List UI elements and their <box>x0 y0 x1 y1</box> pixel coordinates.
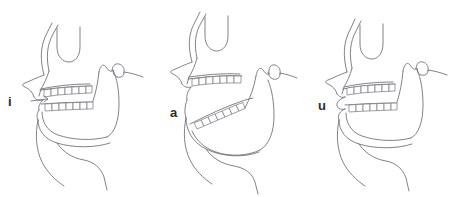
panel-vowel-i: i <box>0 0 152 197</box>
upper-teeth-row-i <box>44 86 92 97</box>
skull-profile-drawing-a <box>152 0 304 197</box>
panel-vowel-u: u <box>303 0 455 197</box>
lower-teeth-row-i <box>45 102 93 111</box>
lower-teeth-row-u <box>349 103 397 112</box>
lower-teeth-row-a <box>194 103 245 130</box>
vowel-label-a: a <box>170 106 177 119</box>
vowel-label-u: u <box>318 99 326 112</box>
vowel-label-i: i <box>8 95 12 108</box>
skull-profile-drawing-i <box>0 0 152 197</box>
vowel-articulation-figure: i <box>0 0 455 197</box>
panel-vowel-a: a <box>152 0 304 197</box>
upper-teeth-row-u <box>347 84 395 95</box>
